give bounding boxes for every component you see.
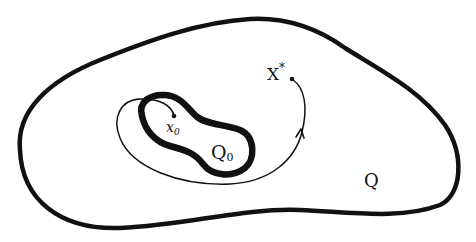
region-q0-boundary	[141, 95, 252, 174]
label-xstar: X*	[267, 61, 285, 84]
point-x0-marker	[172, 114, 177, 119]
region-q-boundary	[20, 19, 459, 228]
diagram-canvas: x0 Q0 X* Q	[0, 0, 476, 242]
point-xstar-marker	[290, 77, 295, 82]
diagram-svg: x0 Q0 X* Q	[0, 0, 476, 242]
label-q0: Q0	[211, 141, 234, 164]
label-x0: x0	[166, 119, 180, 137]
label-q: Q	[364, 170, 379, 191]
